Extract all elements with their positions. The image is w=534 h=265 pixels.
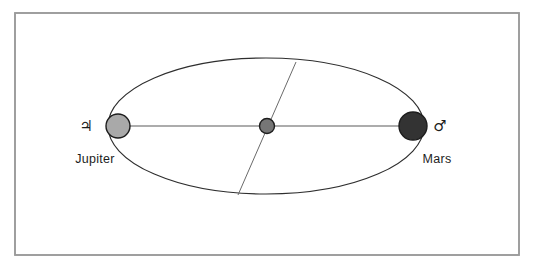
mars-label: Mars bbox=[423, 152, 452, 166]
center-body bbox=[260, 119, 275, 134]
mars-body bbox=[399, 112, 427, 140]
jupiter-symbol: ♃ bbox=[79, 117, 92, 135]
diagram-canvas: ♃ ♂ Jupiter Mars bbox=[0, 0, 534, 265]
orbit-diagram-figure: ♃ ♂ Jupiter Mars bbox=[0, 0, 534, 265]
jupiter-body bbox=[106, 114, 130, 138]
jupiter-label: Jupiter bbox=[75, 152, 115, 166]
mars-symbol: ♂ bbox=[433, 117, 446, 135]
